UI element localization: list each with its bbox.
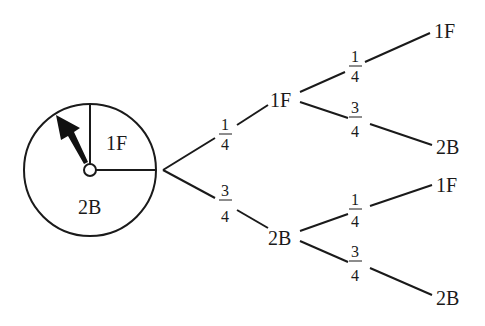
svg-text:1: 1 [351, 48, 359, 65]
leaf-2b-2b: 2B [436, 287, 459, 309]
diagram-svg: 1F 2B 1 4 3 4 1F 2B 1 4 3 4 1F 2B 1 4 [0, 0, 485, 326]
svg-text:4: 4 [351, 68, 359, 85]
svg-text:4: 4 [351, 213, 359, 230]
svg-text:3: 3 [351, 99, 359, 116]
spinner-label-1f: 1F [106, 132, 127, 154]
svg-text:4: 4 [221, 208, 229, 225]
leaf-1f-1f: 1F [434, 20, 455, 42]
svg-text:1: 1 [221, 116, 229, 133]
spinner-label-2b: 2B [78, 196, 101, 218]
prob-root-1f: 1 4 [219, 116, 232, 153]
node-2b: 2B [268, 227, 291, 249]
branch-1f-1f-b [365, 33, 430, 62]
branch-2b-2b-a [300, 241, 348, 262]
branch-root-1f-b [237, 105, 268, 125]
prob-2b-2b: 3 4 [349, 243, 362, 284]
prob-1f-2b: 3 4 [349, 99, 362, 140]
svg-text:4: 4 [351, 123, 359, 140]
leaf-2b-1f: 1F [436, 174, 457, 196]
svg-text:3: 3 [351, 243, 359, 260]
branch-root-2b-b [237, 210, 268, 228]
svg-text:4: 4 [351, 267, 359, 284]
branch-root-1f-a [163, 138, 215, 170]
svg-text:1: 1 [351, 191, 359, 208]
branch-1f-2b-a [300, 102, 348, 118]
node-1f: 1F [270, 89, 291, 111]
prob-2b-1f: 1 4 [349, 191, 362, 230]
tree-diagram: 1F 2B 1 4 3 4 1F 2B 1 4 3 4 1F 2B 1 4 [0, 0, 485, 326]
branch-2b-1f-a [300, 214, 348, 231]
leaf-1f-2b: 2B [436, 136, 459, 158]
branch-1f-2b-b [370, 124, 432, 145]
prob-root-2b: 3 4 [219, 182, 232, 225]
branch-root-2b-a [163, 170, 215, 198]
prob-1f-1f: 1 4 [349, 48, 362, 85]
spinner: 1F 2B [24, 104, 156, 236]
branch-2b-2b-b [370, 268, 432, 295]
branch-1f-1f-a [300, 72, 345, 92]
branch-2b-1f-b [370, 185, 432, 206]
spinner-arrow-icon [56, 115, 88, 164]
svg-text:3: 3 [221, 182, 229, 199]
spinner-pin [84, 164, 96, 176]
svg-text:4: 4 [221, 136, 229, 153]
